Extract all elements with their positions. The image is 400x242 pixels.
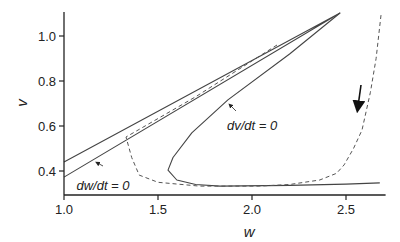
dw-dt-label: dw/dt = 0 xyxy=(76,178,130,193)
x-tick-label: 2.5 xyxy=(337,202,355,217)
y-tick-label: 0.4 xyxy=(38,164,56,179)
y-tick-label: 0.8 xyxy=(38,74,56,89)
dv-dt-pointer-arrow xyxy=(229,104,236,111)
dv-dt-nullcline xyxy=(168,13,380,186)
y-tick-label: 0.6 xyxy=(38,119,56,134)
x-tick-label: 1.0 xyxy=(55,202,73,217)
x-tick-label: 2.0 xyxy=(243,202,261,217)
y-axis-label: v xyxy=(13,98,30,107)
y-tick-label: 1.0 xyxy=(38,29,56,44)
x-axis-label: w xyxy=(244,223,256,240)
x-tick-label: 1.5 xyxy=(149,202,167,217)
direction-arrow-icon xyxy=(358,85,362,110)
trajectory-curve xyxy=(126,15,381,186)
plot-curves xyxy=(64,13,381,186)
dw-dt-nullcline xyxy=(64,13,340,177)
dw-dt-pointer-arrow xyxy=(96,162,103,166)
phase-plane-chart: 1.01.52.02.50.40.60.81.0wv dw/dt = 0dv/d… xyxy=(0,0,400,242)
annotations: dw/dt = 0dv/dt = 0 xyxy=(76,85,361,193)
dv-dt-label: dv/dt = 0 xyxy=(227,118,278,133)
